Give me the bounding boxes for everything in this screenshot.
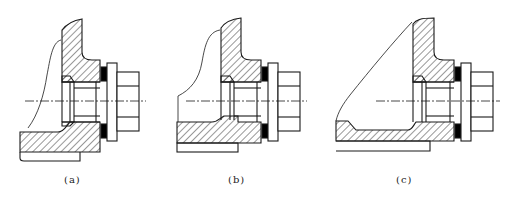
panel-a [20,19,146,161]
panel-b [177,18,307,152]
caption-a: (a) [64,174,81,185]
caption-c: (c) [396,174,412,185]
panel-c [336,18,500,151]
caption-b: (b) [228,174,245,185]
technical-drawing [0,0,509,198]
